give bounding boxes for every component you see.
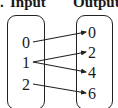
arrow-1-to-4 <box>33 62 86 72</box>
arrow-2-to-6 <box>33 84 86 93</box>
mapping-arrows <box>0 0 118 108</box>
arrow-0-to-0 <box>33 32 86 42</box>
arrow-1-to-2 <box>33 52 86 62</box>
